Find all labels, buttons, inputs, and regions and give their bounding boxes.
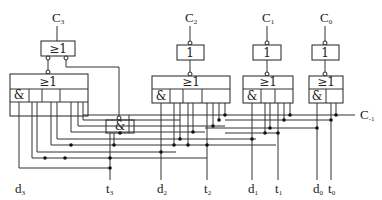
label-t1: t1 bbox=[275, 181, 283, 197]
label-t0: t0 bbox=[328, 181, 336, 197]
c2-section: 1 ≥1 & bbox=[152, 26, 230, 103]
logic-circuit-diagram: ≥1 ≥1 & & 1 ≥1 & bbox=[0, 0, 382, 200]
and-symbol: & bbox=[312, 89, 323, 103]
label-d3: d3 bbox=[15, 181, 26, 197]
not-symbol: 1 bbox=[186, 46, 194, 60]
or-symbol: ≥1 bbox=[39, 75, 57, 89]
c1-section: 1 ≥1 & bbox=[243, 26, 293, 103]
label-t3: t3 bbox=[106, 181, 114, 197]
label-c3: C3 bbox=[52, 10, 65, 26]
label-c2: C2 bbox=[185, 10, 198, 26]
label-c0: C0 bbox=[320, 10, 333, 26]
label-c1: C1 bbox=[262, 10, 275, 26]
label-d0: d0 bbox=[313, 181, 324, 197]
or-symbol: ≥1 bbox=[259, 75, 277, 89]
input-labels: d3 t3 d2 t2 d1 t1 d0 t0 bbox=[15, 181, 336, 197]
label-d2: d2 bbox=[157, 181, 168, 197]
and-symbol: & bbox=[156, 89, 167, 103]
not-symbol: 1 bbox=[321, 46, 329, 60]
or-symbol: ≥1 bbox=[317, 75, 335, 89]
or-symbol: ≥1 bbox=[182, 75, 200, 89]
label-t2: t2 bbox=[204, 181, 212, 197]
label-carry-in: C-1 bbox=[360, 107, 375, 123]
label-d1: d1 bbox=[248, 181, 259, 197]
c0-section: 1 ≥1 & bbox=[309, 26, 343, 103]
c3-section: ≥1 ≥1 & & bbox=[10, 26, 134, 133]
or-symbol: ≥1 bbox=[49, 42, 67, 56]
and-symbol: & bbox=[14, 88, 25, 102]
not-symbol: 1 bbox=[263, 46, 271, 60]
and-symbol: & bbox=[247, 89, 258, 103]
